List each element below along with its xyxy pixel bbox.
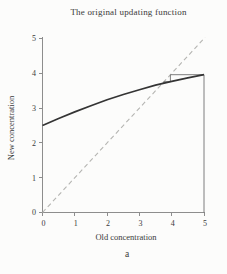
panel-letter-label: a — [27, 249, 227, 259]
x-tick-label: 1 — [74, 219, 78, 228]
identity-diagonal — [43, 38, 206, 213]
cobweb-iteration — [163, 75, 204, 213]
y-tick-label: 3 — [32, 104, 36, 113]
x-tick-label: 3 — [138, 219, 142, 228]
updating-function-curve — [43, 75, 205, 126]
x-tick-label: 5 — [203, 219, 207, 228]
y-tick-label: 5 — [32, 34, 36, 43]
y-tick-label: 0 — [32, 208, 36, 217]
y-axis-label: New concentration — [6, 96, 16, 160]
x-tick-label: 4 — [171, 219, 175, 228]
y-tick-label: 1 — [32, 174, 36, 183]
x-axis-label: Old concentration — [27, 232, 225, 242]
y-tick-label: 4 — [32, 69, 36, 78]
x-tick-label: 0 — [42, 219, 46, 228]
figure-page: The original updating function 012345012… — [0, 0, 227, 274]
y-tick-label: 2 — [32, 139, 36, 148]
x-tick-label: 2 — [106, 219, 110, 228]
